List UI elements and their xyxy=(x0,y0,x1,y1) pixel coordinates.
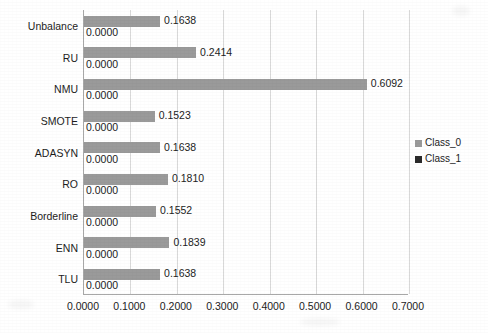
bar-group: 0.15230.0000 xyxy=(84,105,408,137)
bar-value-label-class0: 0.2414 xyxy=(200,47,232,58)
bar-value-label-class0: 0.1839 xyxy=(173,237,205,248)
bar-value-label-class1: 0.0000 xyxy=(86,280,118,291)
bar-class0 xyxy=(84,111,155,122)
gridline-0.7000 xyxy=(409,10,410,294)
bar-class0 xyxy=(84,142,160,153)
bar-value-label-class1: 0.0000 xyxy=(86,185,118,196)
bar-value-label-class1: 0.0000 xyxy=(86,122,118,133)
plot-area: 0.16380.00000.24140.00000.60920.00000.15… xyxy=(83,10,408,295)
bar-value-label-class1: 0.0000 xyxy=(86,27,118,38)
bar-group: 0.16380.0000 xyxy=(84,263,408,295)
bar-class0 xyxy=(84,79,367,90)
scan-smudge xyxy=(300,318,340,326)
bar-value-label-class0: 0.1810 xyxy=(172,173,204,184)
bar-group: 0.60920.0000 xyxy=(84,73,408,105)
bar-value-label-class1: 0.0000 xyxy=(86,217,118,228)
bar-class0 xyxy=(84,269,160,280)
bar-value-label-class1: 0.0000 xyxy=(86,59,118,70)
category-label-adasyn: ADASYN xyxy=(0,147,78,159)
category-label-nmu: NMU xyxy=(0,83,78,95)
bar-value-label-class0: 0.1523 xyxy=(159,110,191,121)
bar-group: 0.15520.0000 xyxy=(84,200,408,232)
legend-label: Class_1 xyxy=(425,152,461,166)
category-label-borderline: Borderline xyxy=(0,210,78,222)
bar-value-label-class1: 0.0000 xyxy=(86,154,118,165)
legend-item-class_0[interactable]: Class_0 xyxy=(415,136,461,150)
bar-class0 xyxy=(84,206,156,217)
bar-class0 xyxy=(84,237,169,248)
x-tick-label-0.7000: 0.7000 xyxy=(378,300,438,312)
legend-label: Class_0 xyxy=(425,136,461,150)
bar-class0 xyxy=(84,47,196,58)
bar-class0 xyxy=(84,174,168,185)
bar-chart: 0.16380.00000.24140.00000.60920.00000.15… xyxy=(0,0,488,333)
category-label-smote: SMOTE xyxy=(0,115,78,127)
bar-value-label-class1: 0.0000 xyxy=(86,249,118,260)
legend-swatch-icon xyxy=(415,140,422,147)
bar-group: 0.18390.0000 xyxy=(84,232,408,264)
category-label-ro: RO xyxy=(0,178,78,190)
category-label-tlu: TLU xyxy=(0,273,78,285)
category-label-enn: ENN xyxy=(0,242,78,254)
legend-item-class_1[interactable]: Class_1 xyxy=(415,152,461,166)
category-label-unbalance: Unbalance xyxy=(0,20,78,32)
bar-value-label-class0: 0.1638 xyxy=(164,142,196,153)
bar-value-label-class0: 0.1638 xyxy=(164,268,196,279)
scan-smudge xyxy=(8,300,34,309)
bar-class0 xyxy=(84,16,160,27)
legend-swatch-icon xyxy=(415,156,422,163)
bar-value-label-class1: 0.0000 xyxy=(86,90,118,101)
bar-group: 0.18100.0000 xyxy=(84,168,408,200)
bar-value-label-class0: 0.1638 xyxy=(164,15,196,26)
category-label-ru: RU xyxy=(0,52,78,64)
bar-group: 0.24140.0000 xyxy=(84,42,408,74)
chart-legend: Class_0Class_1 xyxy=(415,136,461,168)
scan-smudge xyxy=(452,6,470,16)
bar-value-label-class0: 0.6092 xyxy=(371,78,403,89)
bar-group: 0.16380.0000 xyxy=(84,137,408,169)
bar-group: 0.16380.0000 xyxy=(84,10,408,42)
bar-value-label-class0: 0.1552 xyxy=(160,205,192,216)
